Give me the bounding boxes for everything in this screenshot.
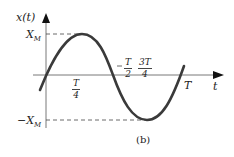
min-label-sub: M — [34, 121, 41, 129]
quarter-period-label: T 4 — [72, 79, 80, 100]
max-label-main: X — [26, 28, 34, 41]
period-label: T — [184, 80, 191, 91]
three-quarter-period-label: 3T 4 — [138, 58, 152, 79]
min-label-main: −X — [17, 114, 34, 127]
sine-wave-diagram — [0, 0, 234, 157]
quarter-num: T — [72, 79, 80, 88]
half-period-label: T 2 — [124, 58, 132, 79]
min-label: −XM — [17, 115, 41, 129]
quarter-den: 4 — [72, 91, 80, 100]
three-quarter-den: 4 — [141, 70, 149, 79]
sine-curve — [40, 34, 184, 120]
half-num: T — [124, 58, 132, 67]
three-quarter-num: 3T — [138, 58, 152, 67]
y-axis-arrow-icon — [42, 13, 50, 23]
max-label-sub: M — [34, 35, 41, 43]
y-axis-label: x(t) — [16, 12, 35, 23]
figure-caption: (b) — [136, 134, 150, 145]
x-axis-label: t — [213, 81, 217, 92]
half-den: 2 — [124, 70, 132, 79]
x-axis-arrow-icon — [213, 71, 224, 79]
max-label: XM — [26, 29, 41, 43]
